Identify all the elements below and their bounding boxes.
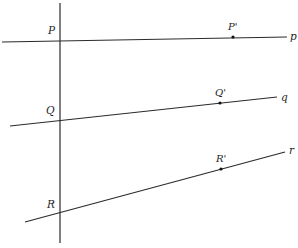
geometry-diagram: p P P' q Q Q' r R R'	[0, 0, 298, 248]
line-p-group: p P P'	[2, 21, 297, 42]
point-P-prime-marker	[231, 35, 234, 38]
point-Q-prime-label: Q'	[215, 87, 226, 98]
point-R-prime-marker	[219, 167, 222, 170]
line-q-label: q	[281, 91, 288, 103]
line-p	[2, 37, 287, 42]
point-P-prime-label: P'	[227, 21, 237, 32]
point-Q-prime-marker	[218, 101, 221, 104]
line-q-group: q Q Q'	[10, 87, 288, 126]
point-R-label: R	[46, 198, 55, 210]
line-r-label: r	[289, 144, 295, 156]
point-Q-label: Q	[46, 104, 55, 117]
point-P-label: P	[47, 24, 56, 36]
line-p-label: p	[290, 30, 297, 42]
line-r	[25, 152, 285, 222]
point-R-prime-label: R'	[215, 153, 226, 164]
line-r-group: r R R'	[25, 144, 295, 222]
